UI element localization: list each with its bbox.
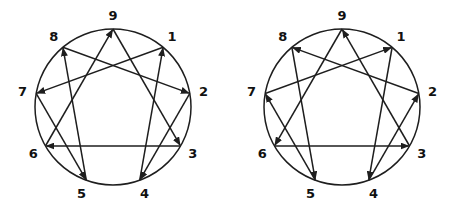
point-label-4-left: 4 (140, 186, 149, 201)
point-label-7-left: 7 (18, 84, 27, 99)
point-label-8-left: 8 (49, 29, 58, 44)
point-label-4-right: 4 (369, 186, 378, 201)
enneagram-circle (264, 29, 420, 185)
point-label-3-right: 3 (417, 146, 426, 161)
arrow-6-to-9 (45, 30, 112, 146)
arrow-9-to-6 (275, 29, 342, 145)
enneagram-figure: 123456789123456789 (0, 0, 457, 210)
enneagram-right: 123456789 (247, 8, 437, 201)
point-label-6-left: 6 (29, 146, 38, 161)
point-label-2-left: 2 (199, 84, 208, 99)
point-label-2-right: 2 (428, 84, 437, 99)
enneagram-left: 123456789 (18, 8, 208, 201)
point-label-1-right: 1 (397, 29, 406, 44)
point-label-6-right: 6 (258, 146, 267, 161)
point-label-7-right: 7 (247, 84, 256, 99)
point-label-5-right: 5 (306, 186, 315, 201)
point-label-9-left: 9 (108, 8, 117, 23)
arrow-9-to-3 (113, 29, 180, 145)
point-label-5-left: 5 (77, 186, 86, 201)
enneagram-circle (35, 29, 191, 185)
arrow-3-to-9 (343, 30, 410, 146)
point-label-8-right: 8 (278, 29, 287, 44)
point-label-1-left: 1 (168, 29, 177, 44)
point-label-9-right: 9 (337, 8, 346, 23)
enneagram-diagrams-canvas: 123456789123456789 (0, 0, 457, 210)
point-label-3-left: 3 (188, 146, 197, 161)
